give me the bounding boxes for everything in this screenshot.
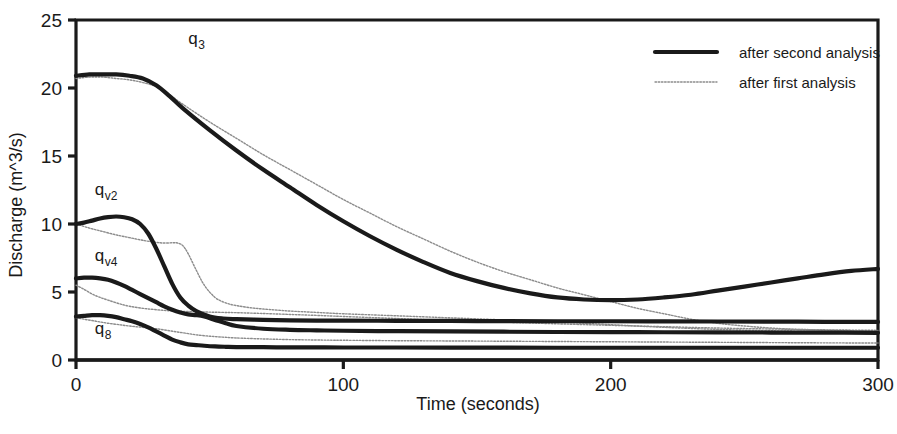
discharge-time-chart-figure: 0510152025 0100200300 q3 after first ana… (0, 0, 897, 434)
x-tick-label: 200 (595, 374, 627, 395)
curve-label-text: q (95, 246, 104, 265)
y-tick-label: 5 (51, 282, 62, 303)
x-tick-label: 100 (327, 374, 359, 395)
legend-label: after second analysis (739, 44, 880, 61)
x-tick-label: 0 (71, 374, 82, 395)
curve-label-subscript: 3 (198, 38, 205, 52)
curve-label-text: q (188, 29, 197, 48)
y-tick-label: 15 (41, 146, 62, 167)
y-axis-title: Discharge (m^3/s) (6, 132, 26, 277)
y-tick-label: 20 (41, 78, 62, 99)
chart-canvas: 0510152025 0100200300 q3 after first ana… (0, 0, 897, 434)
curve-label-subscript: 8 (105, 328, 112, 342)
curve-label-text: q (95, 319, 104, 338)
legend-label: after first analysis (739, 74, 856, 91)
curve-label-text: q (95, 180, 104, 199)
x-axis-title: Time (seconds) (416, 394, 539, 414)
curve-label-subscript: v2 (105, 189, 118, 203)
x-tick-label: 300 (862, 374, 894, 395)
y-tick-label: 10 (41, 214, 62, 235)
curve-label-subscript: v4 (105, 255, 118, 269)
y-tick-label: 25 (41, 10, 62, 31)
chart-background (0, 0, 897, 434)
y-tick-label: 0 (51, 350, 62, 371)
